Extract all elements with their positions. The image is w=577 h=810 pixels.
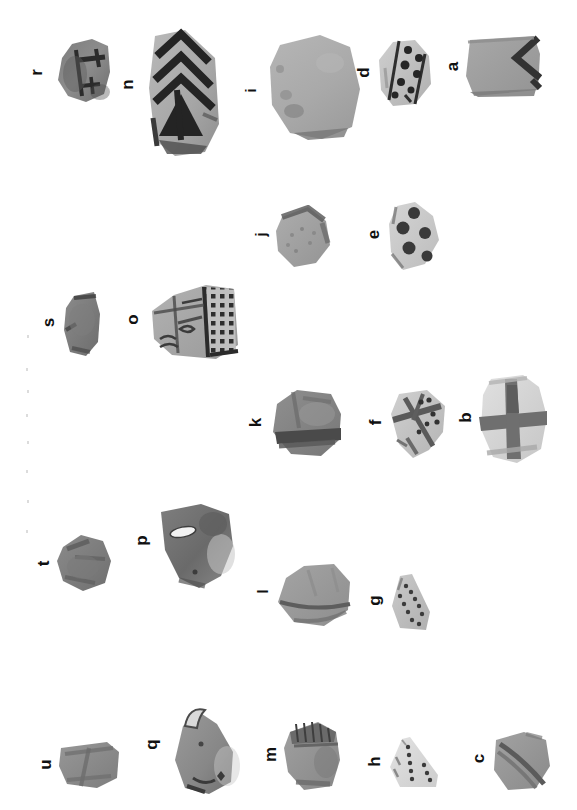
sherd-image-r	[52, 36, 114, 106]
specimen-label-e: e	[365, 225, 382, 245]
specimen-s: s	[60, 290, 104, 360]
specimen-label-s: s	[40, 313, 57, 333]
specimen-label-j: j	[253, 225, 268, 245]
sherd-image-o	[146, 283, 240, 363]
scan-artifact	[26, 530, 28, 533]
specimen-c: c	[490, 730, 552, 792]
specimen-e: e	[385, 200, 443, 272]
scan-artifact	[27, 390, 29, 393]
pottery-plate: r	[0, 0, 577, 810]
specimen-p: p	[155, 502, 235, 590]
specimen-label-n: n	[119, 75, 136, 95]
specimen-label-u: u	[37, 755, 54, 775]
sherd-image-a	[464, 32, 542, 102]
specimen-a: a	[464, 32, 542, 102]
specimen-l: l	[274, 562, 354, 630]
specimen-label-g: g	[366, 591, 383, 611]
sherd-image-m	[282, 720, 344, 792]
specimen-label-d: d	[355, 63, 372, 83]
specimen-label-p: p	[133, 531, 150, 551]
specimen-f: f	[387, 388, 449, 460]
specimen-label-f: f	[367, 413, 384, 433]
specimen-m: m	[282, 720, 344, 792]
specimen-label-t: t	[35, 554, 52, 574]
scan-artifact	[27, 500, 29, 503]
sherd-image-j	[272, 205, 332, 269]
specimen-h: h	[386, 735, 442, 791]
scan-artifact	[26, 368, 28, 371]
sherd-image-i	[264, 33, 364, 143]
sherd-image-s	[60, 290, 104, 360]
sherd-image-l	[274, 562, 354, 630]
specimen-label-q: q	[143, 735, 160, 755]
specimen-b: b	[477, 373, 549, 465]
sherd-image-k	[269, 388, 345, 460]
sherd-image-u	[57, 740, 123, 790]
specimen-r: r	[52, 36, 114, 106]
specimen-d: d	[375, 38, 435, 110]
specimen-label-c: c	[470, 749, 487, 769]
specimen-label-h: h	[366, 752, 383, 772]
specimen-q: q	[165, 700, 241, 798]
specimen-label-l: l	[255, 582, 270, 602]
specimen-n: n	[141, 28, 223, 158]
specimen-label-k: k	[247, 413, 264, 433]
specimen-k: k	[269, 388, 345, 460]
sherd-image-h	[386, 735, 442, 791]
specimen-u: u	[57, 740, 123, 790]
specimen-label-m: m	[262, 745, 279, 765]
sherd-image-g	[386, 572, 434, 634]
scan-artifact	[27, 335, 29, 338]
specimen-i: i	[264, 33, 364, 143]
scan-artifact	[26, 414, 28, 417]
scan-artifact	[27, 441, 29, 444]
sherd-image-q	[165, 700, 241, 798]
specimen-j: j	[272, 205, 332, 269]
specimen-label-r: r	[28, 63, 45, 83]
specimen-g: g	[386, 572, 434, 634]
specimen-label-i: i	[243, 81, 258, 101]
specimen-label-a: a	[444, 57, 461, 77]
specimen-label-b: b	[457, 408, 474, 428]
sherd-image-d	[375, 38, 435, 110]
sherd-image-f	[387, 388, 449, 460]
sherd-image-b	[477, 373, 549, 465]
scan-artifact	[26, 470, 28, 473]
sherd-image-c	[490, 730, 552, 792]
specimen-o: o	[146, 283, 240, 363]
sherd-image-e	[385, 200, 443, 272]
specimen-label-o: o	[124, 310, 141, 330]
sherd-image-p	[155, 502, 235, 590]
sherd-image-n	[141, 28, 223, 158]
sherd-image-t	[55, 533, 115, 593]
specimen-t: t	[55, 533, 115, 593]
